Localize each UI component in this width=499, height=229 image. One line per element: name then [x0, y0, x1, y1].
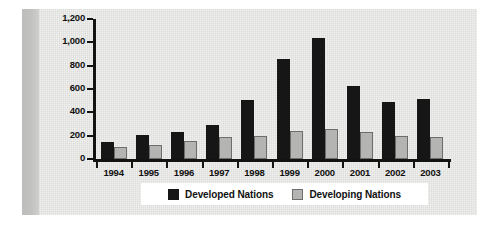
bar-1995-developing: [149, 145, 162, 159]
bar-1995-developed: [136, 135, 149, 159]
y-tick-label: 400: [70, 105, 85, 116]
x-tick-label-2002: 2002: [378, 167, 413, 178]
y-tick-mark: [87, 65, 93, 67]
plot-area: 02004006008001,0001,200 1994199519961997…: [96, 19, 448, 159]
x-tick-label-2001: 2001: [342, 167, 377, 178]
bar-2002-developing: [395, 136, 408, 159]
y-tick-mark: [87, 41, 93, 43]
x-tick-label-1997: 1997: [202, 167, 237, 178]
y-axis-spine: [93, 19, 96, 160]
y-tick-mark: [87, 158, 93, 160]
y-tick-label: 200: [70, 129, 85, 140]
chart-figure: 02004006008001,0001,200 1994199519961997…: [0, 0, 499, 229]
x-tick-label-2000: 2000: [307, 167, 342, 178]
y-tick-mark: [87, 135, 93, 137]
x-tick-label-1996: 1996: [166, 167, 201, 178]
bar-1999-developed: [277, 59, 290, 159]
y-tick-label: 0: [80, 152, 85, 163]
bar-1998-developed: [241, 100, 254, 159]
bar-1994-developing: [114, 147, 127, 159]
bar-2000-developed: [312, 38, 325, 159]
bar-2003-developed: [417, 99, 430, 159]
panel-left-shadow-band: [22, 9, 39, 215]
legend-swatch-icon: [292, 189, 303, 200]
bar-1997-developed: [206, 125, 219, 159]
bar-1994-developed: [101, 142, 114, 159]
legend-entry-developing[interactable]: Developing Nations: [292, 189, 401, 200]
x-tick-label-1999: 1999: [272, 167, 307, 178]
bar-1996-developed: [171, 132, 184, 159]
bar-1999-developing: [290, 131, 303, 159]
legend-entry-developed[interactable]: Developed Nations: [168, 189, 273, 200]
bar-2001-developing: [360, 132, 373, 159]
legend-label: Developed Nations: [185, 189, 273, 200]
y-tick-mark: [87, 18, 93, 20]
legend-label: Developing Nations: [309, 189, 401, 200]
y-tick-label: 1,000: [62, 35, 85, 46]
y-tick-label: 1,200: [62, 12, 85, 23]
x-tick-label-1994: 1994: [96, 167, 131, 178]
bar-1997-developing: [219, 137, 232, 159]
legend-swatch-icon: [168, 189, 179, 200]
bar-1998-developing: [254, 136, 267, 159]
y-tick-mark: [87, 88, 93, 90]
bar-2001-developed: [347, 86, 360, 159]
y-tick-mark: [87, 111, 93, 113]
bar-2000-developing: [325, 129, 338, 159]
y-tick-label: 800: [70, 59, 85, 70]
bar-2003-developing: [430, 137, 443, 159]
x-tick-label-1995: 1995: [131, 167, 166, 178]
x-tick-label-2003: 2003: [413, 167, 448, 178]
bar-2002-developed: [382, 102, 395, 159]
x-tick-mark: [448, 162, 450, 168]
y-tick-label: 600: [70, 82, 85, 93]
x-tick-label-1998: 1998: [237, 167, 272, 178]
chart-legend: Developed NationsDeveloping Nations: [141, 183, 428, 205]
bar-1996-developing: [184, 141, 197, 159]
